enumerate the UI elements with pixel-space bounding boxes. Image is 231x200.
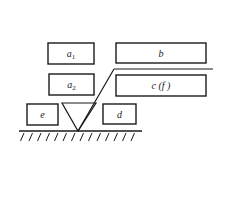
mechanism-diagram: a1a2bc (f )ed	[0, 0, 231, 200]
box-a1: a1	[48, 43, 94, 64]
hatch-mark	[131, 133, 135, 141]
box-a1-label: a1	[67, 48, 76, 61]
hatch-mark	[114, 133, 118, 141]
hatch-mark	[97, 133, 101, 141]
box-cf: c (f )	[116, 75, 206, 96]
boxes-group: a1a2bc (f )ed	[27, 43, 206, 125]
hatch-mark	[29, 133, 33, 141]
hatch-mark	[38, 133, 42, 141]
hatch-mark	[46, 133, 50, 141]
hatch-mark	[123, 133, 127, 141]
box-e-label: e	[40, 109, 45, 120]
box-b: b	[116, 43, 206, 63]
hatch-mark	[106, 133, 110, 141]
box-b-label: b	[159, 48, 164, 59]
box-d-label: d	[117, 109, 123, 120]
hatch-mark	[80, 133, 84, 141]
slanted-line	[78, 69, 114, 131]
box-a2: a2	[49, 74, 94, 95]
hatch-mark	[89, 133, 93, 141]
hatch-mark	[72, 133, 76, 141]
triangle-wedge	[62, 103, 96, 131]
hatch-mark	[63, 133, 67, 141]
box-a2-label: a2	[67, 79, 76, 92]
hatch-mark	[55, 133, 59, 141]
box-cf-label: c (f )	[152, 80, 172, 92]
box-e: e	[27, 104, 58, 125]
ground-hatching	[21, 133, 135, 141]
hatch-mark	[21, 133, 25, 141]
box-d: d	[103, 104, 136, 124]
